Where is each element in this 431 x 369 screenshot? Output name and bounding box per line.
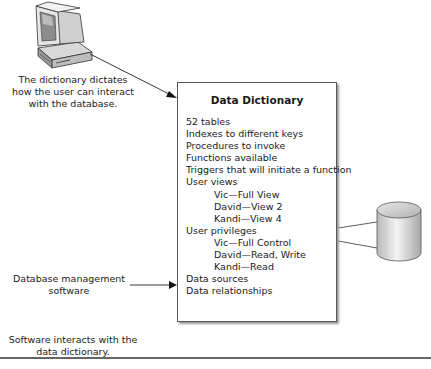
label-line: software	[10, 285, 128, 297]
dictionary-subitem: David—Read, Write	[186, 249, 351, 261]
arrow-dbms-to-dictionary	[130, 281, 177, 289]
caption-line: data dictionary.	[0, 346, 146, 358]
dictionary-item: Triggers that will initiate a function	[186, 164, 351, 176]
dictionary-subitem: Kandi—Read	[186, 261, 351, 273]
caption-line: The dictionary dictates	[0, 74, 146, 86]
computer-icon	[36, 2, 92, 68]
caption-line: with the database.	[0, 98, 146, 110]
dictionary-item: Functions available	[186, 152, 351, 164]
dictionary-item: Data relationships	[186, 285, 351, 297]
data-dictionary-box: Data Dictionary 52 tablesIndexes to diff…	[177, 82, 337, 322]
dictionary-item: 52 tables	[186, 116, 351, 128]
caption-line: Software interacts with the	[0, 334, 146, 346]
dictionary-item: User privileges	[186, 225, 351, 237]
dictionary-item: Procedures to invoke	[186, 140, 351, 152]
dictionary-subitem: Vic—Full Control	[186, 237, 351, 249]
data-dictionary-list: 52 tablesIndexes to different keysProced…	[186, 116, 351, 297]
dbms-label: Database management software	[10, 273, 128, 297]
dictionary-subitem: David—View 2	[186, 201, 351, 213]
dictionary-subitem: Vic—Full View	[186, 189, 351, 201]
label-line: Database management	[10, 273, 128, 285]
caption-line: how the user can interact	[0, 86, 146, 98]
data-dictionary-title: Data Dictionary	[178, 94, 336, 106]
software-caption: Software interacts with the data diction…	[0, 334, 146, 358]
user-interaction-caption: The dictionary dictates how the user can…	[0, 74, 146, 110]
database-cylinder-icon	[377, 202, 421, 261]
dictionary-item: Indexes to different keys	[186, 128, 351, 140]
dictionary-item: Data sources	[186, 273, 351, 285]
dictionary-subitem: Kandi—View 4	[186, 213, 351, 225]
dictionary-item: User views	[186, 176, 351, 188]
